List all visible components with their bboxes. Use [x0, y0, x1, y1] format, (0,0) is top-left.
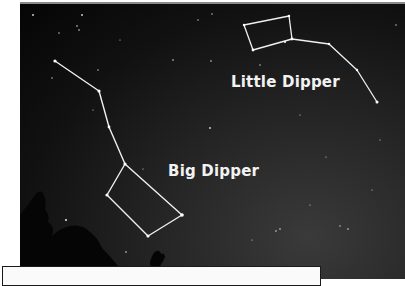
big-dipper-lines	[55, 61, 182, 236]
little-dipper-label: Little Dipper	[231, 73, 340, 91]
caption-box	[2, 266, 321, 286]
big-dipper-label: Big Dipper	[168, 162, 259, 180]
stars	[32, 13, 397, 253]
